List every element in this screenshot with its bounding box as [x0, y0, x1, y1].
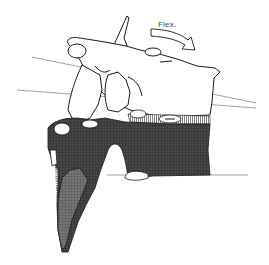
vertebra-flexion-diagram: Flex.: [0, 0, 269, 265]
flex-annotation: Flex.: [158, 20, 176, 29]
flexion-arrow-icon: [151, 29, 195, 50]
upper-vertebra: [68, 16, 220, 122]
lower-vertebra: [48, 110, 210, 252]
